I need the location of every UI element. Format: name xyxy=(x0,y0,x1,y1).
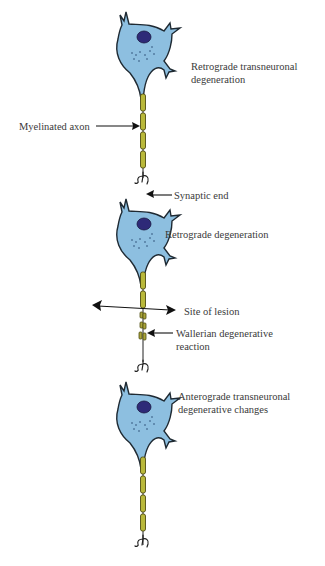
synaptic-terminal-icon xyxy=(135,360,148,372)
synaptic-terminal-icon xyxy=(135,172,148,184)
label-line: reaction xyxy=(176,340,273,353)
label-retrograde-degeneration: Retrograde degeneration xyxy=(165,228,269,241)
label-retrograde-transneuronal: Retrograde transneuronal degeneration xyxy=(191,60,297,86)
myelinated-axon-arrow xyxy=(96,122,140,130)
neuron-cell-body-icon xyxy=(117,382,180,469)
label-line: Retrograde transneuronal xyxy=(191,60,297,73)
label-line: degeneration xyxy=(191,73,297,86)
synaptic-terminal-icon xyxy=(135,535,148,547)
downstream-neuron xyxy=(117,382,180,547)
label-line: degenerative changes xyxy=(178,403,290,416)
label-myelinated-axon: Myelinated axon xyxy=(19,120,90,133)
label-site-of-lesion: Site of lesion xyxy=(184,305,239,318)
label-wallerian: Wallerian degenerative reaction xyxy=(176,327,273,353)
injured-neuron xyxy=(117,199,180,372)
label-line: Anterograde transneuronal xyxy=(178,390,290,403)
synaptic-end-arrow xyxy=(146,190,172,198)
lesion-double-arrow xyxy=(92,300,176,315)
label-line: Wallerian degenerative xyxy=(176,327,273,340)
neuron-cell-body-icon xyxy=(117,12,180,99)
label-synaptic-end: Synaptic end xyxy=(174,189,229,202)
label-anterograde-transneuronal: Anterograde transneuronal degenerative c… xyxy=(178,390,290,416)
upstream-neuron xyxy=(117,12,180,184)
wallerian-arrow xyxy=(147,329,173,337)
neuron-cell-body-icon xyxy=(117,199,180,286)
